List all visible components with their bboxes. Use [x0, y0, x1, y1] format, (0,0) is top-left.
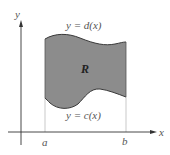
a-label: a [42, 137, 48, 148]
y-axis-arrow-icon [19, 20, 23, 27]
x-axis-arrow-icon [150, 130, 157, 134]
region-diagram: y x y = d(x) y = c(x) R a b [0, 0, 170, 155]
region-label: R [81, 64, 89, 75]
b-label: b [122, 136, 128, 147]
y-axis-label: y [15, 9, 20, 20]
top-curve-label: y = d(x) [66, 20, 102, 31]
bottom-curve-label: y = c(x) [66, 110, 101, 121]
x-axis-label: x [159, 127, 164, 138]
